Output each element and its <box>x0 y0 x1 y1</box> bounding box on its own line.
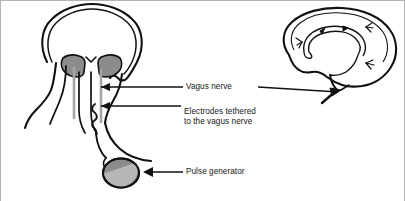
pulse-generator-implant <box>103 159 139 188</box>
interhemispheric-notch <box>86 57 96 62</box>
nerve-branch-upper-right <box>366 23 373 32</box>
label-electrodes-line2: to the vagus nerve <box>184 117 252 126</box>
coiled-nerve-wire <box>92 104 97 134</box>
leader-electrodes-arrowhead <box>101 102 110 110</box>
midbrain-contour <box>330 55 358 75</box>
leader-vagus-nerve-brain <box>258 87 338 92</box>
brain-sagittal-view <box>284 8 396 103</box>
nerve-branch-upper-left <box>296 38 302 48</box>
trachea-left-wall <box>79 72 85 133</box>
leader-vagus-nerve <box>101 83 183 91</box>
chest-right-outline <box>105 123 151 161</box>
neck-right-outline <box>105 74 122 123</box>
leader-vagus-arrowhead <box>101 83 110 91</box>
lead-to-generator <box>96 134 106 158</box>
neck-left-inner-line <box>50 66 66 124</box>
lateral-ventricle <box>304 52 312 58</box>
label-electrodes-tethered: Electrodes tetheredto the vagus nerve <box>184 107 256 128</box>
label-electrodes-line1: Electrodes tethered <box>184 107 256 116</box>
nerve-branch-lower-right <box>366 60 374 69</box>
leader-pulse-generator-arrowhead <box>143 167 153 177</box>
vns-diagram-figure: Vagus nerve Electrodes tetheredto the va… <box>0 0 405 201</box>
corpus-callosum-inner <box>309 31 360 55</box>
head-coronal-view <box>25 4 151 166</box>
label-vagus-nerve: Vagus nerve <box>186 82 232 92</box>
label-pulse-generator: Pulse generator <box>186 167 245 177</box>
leader-pulse-generator <box>143 167 183 177</box>
leader-electrodes <box>101 102 181 110</box>
skull-outer-outline <box>42 4 141 80</box>
cortical-sulcus-line <box>291 13 387 62</box>
signal-arrowhead-right <box>343 26 348 31</box>
